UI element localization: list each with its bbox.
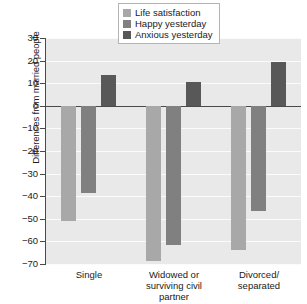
y-tick-label: −70 bbox=[0, 259, 38, 269]
y-tick-mark bbox=[40, 106, 45, 107]
y-tick-mark bbox=[40, 61, 45, 62]
y-tick-label: −30 bbox=[0, 169, 38, 179]
bar bbox=[61, 106, 76, 221]
bar bbox=[146, 106, 161, 261]
y-tick-label: −20 bbox=[0, 146, 38, 156]
legend-swatch-happy-yesterday bbox=[123, 20, 131, 28]
y-tick-mark bbox=[40, 128, 45, 129]
y-tick-mark bbox=[40, 174, 45, 175]
legend-label-anxious-yesterday: Anxious yesterday bbox=[135, 30, 213, 40]
y-tick-mark bbox=[40, 151, 45, 152]
y-tick-mark bbox=[40, 219, 45, 220]
y-tick-mark bbox=[40, 241, 45, 242]
y-tick-mark bbox=[40, 38, 45, 39]
y-axis-line bbox=[45, 38, 46, 265]
x-axis-category-label-line: Divorced/ bbox=[209, 269, 307, 280]
legend-label-life-satisfaction: Life satisfaction bbox=[135, 8, 200, 18]
bar-chart: Differences from married people 3020100−… bbox=[0, 0, 307, 304]
y-tick-label: 0 bbox=[0, 101, 38, 111]
y-tick-mark bbox=[40, 83, 45, 84]
plot-area bbox=[46, 38, 301, 264]
bar bbox=[101, 75, 116, 106]
legend-item: Happy yesterday bbox=[123, 18, 213, 29]
x-axis-category-label-line: partner bbox=[124, 291, 224, 302]
y-tick-mark bbox=[40, 264, 45, 265]
bar bbox=[166, 106, 181, 245]
legend-swatch-anxious-yesterday bbox=[123, 31, 131, 39]
gridline bbox=[46, 83, 301, 84]
legend-item: Life satisfaction bbox=[123, 7, 213, 18]
gridline bbox=[46, 61, 301, 62]
y-tick-mark bbox=[40, 196, 45, 197]
legend-item: Anxious yesterday bbox=[123, 29, 213, 40]
y-tick-label: 30 bbox=[0, 33, 38, 43]
legend-swatch-life-satisfaction bbox=[123, 9, 131, 17]
bar bbox=[271, 62, 286, 106]
x-axis-category-label: Divorced/separated bbox=[209, 269, 307, 291]
y-tick-label: −60 bbox=[0, 236, 38, 246]
x-axis-category-label-line: separated bbox=[209, 280, 307, 291]
y-tick-label: −50 bbox=[0, 214, 38, 224]
bar bbox=[186, 82, 201, 106]
y-tick-label: −10 bbox=[0, 123, 38, 133]
bar bbox=[81, 106, 96, 193]
legend-label-happy-yesterday: Happy yesterday bbox=[135, 19, 206, 29]
y-tick-label: −40 bbox=[0, 191, 38, 201]
y-tick-label: 20 bbox=[0, 56, 38, 66]
chart-legend: Life satisfaction Happy yesterday Anxiou… bbox=[118, 3, 220, 44]
y-axis-title: Differences from married people bbox=[30, 3, 41, 193]
gridline bbox=[46, 264, 301, 265]
bar bbox=[251, 106, 266, 211]
y-tick-label: 10 bbox=[0, 78, 38, 88]
bar bbox=[231, 106, 246, 250]
